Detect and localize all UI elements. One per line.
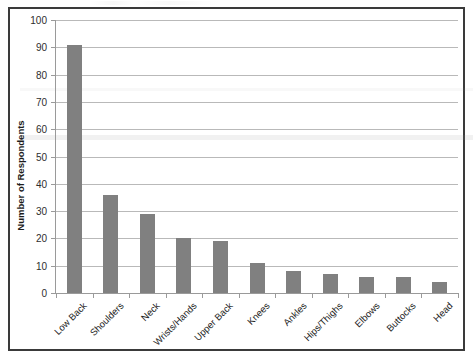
y-tick-label: 30	[36, 206, 47, 217]
y-tick-label: 20	[36, 233, 47, 244]
y-tick-mark	[51, 238, 55, 239]
bar	[213, 241, 228, 293]
y-tick-mark	[51, 157, 55, 158]
y-tick-label: 80	[36, 69, 47, 80]
gridline	[56, 75, 458, 76]
gridline	[56, 293, 458, 294]
x-tick-mark	[202, 293, 203, 298]
x-tick-mark	[421, 293, 422, 298]
bar	[286, 271, 301, 293]
x-tick-mark	[458, 293, 459, 298]
y-tick-mark	[51, 20, 55, 21]
gridline	[56, 129, 458, 130]
y-tick-label: 90	[36, 42, 47, 53]
gridline	[56, 184, 458, 185]
y-tick-label: 70	[36, 96, 47, 107]
x-tick-mark	[385, 293, 386, 298]
chart-screenshot: Number of Respondents 010203040506070809…	[0, 0, 474, 359]
x-tick-mark	[312, 293, 313, 298]
bar	[67, 45, 82, 293]
y-tick-label: 40	[36, 178, 47, 189]
y-tick-mark	[51, 211, 55, 212]
gridline	[56, 20, 458, 21]
y-tick-mark	[51, 184, 55, 185]
bar	[176, 238, 191, 293]
y-tick-label: 100	[30, 15, 47, 26]
gridline	[56, 157, 458, 158]
bar	[323, 274, 338, 293]
scan-artifact-top	[90, 1, 220, 5]
y-tick-label: 0	[41, 288, 47, 299]
bar	[396, 277, 411, 293]
y-axis-ticks: 0102030405060708090100	[0, 0, 47, 359]
x-tick-mark	[166, 293, 167, 298]
gridline	[56, 47, 458, 48]
bar	[250, 263, 265, 293]
y-tick-mark	[51, 293, 55, 294]
y-tick-label: 10	[36, 260, 47, 271]
x-tick-mark	[348, 293, 349, 298]
y-tick-label: 50	[36, 151, 47, 162]
y-tick-mark	[51, 75, 55, 76]
bar	[140, 214, 155, 293]
bar	[103, 195, 118, 293]
plot-area	[56, 20, 458, 293]
y-tick-label: 60	[36, 124, 47, 135]
gridline	[56, 102, 458, 103]
bar	[359, 277, 374, 293]
y-tick-mark	[51, 266, 55, 267]
x-tick-mark	[93, 293, 94, 298]
y-tick-mark	[51, 102, 55, 103]
x-tick-mark	[275, 293, 276, 298]
y-tick-mark	[51, 129, 55, 130]
x-tick-mark	[239, 293, 240, 298]
x-tick-mark	[56, 293, 57, 298]
x-tick-mark	[129, 293, 130, 298]
y-tick-mark	[51, 47, 55, 48]
bar	[432, 282, 447, 293]
